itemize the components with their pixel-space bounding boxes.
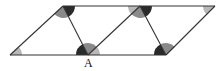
diagonal-2 [88, 6, 140, 55]
diagonal-1 [10, 6, 63, 55]
parallelogram-diagram [0, 0, 222, 71]
cross-edge-1 [63, 6, 88, 55]
diagram-lines [10, 6, 215, 55]
cross-edge-2 [140, 6, 166, 55]
angle-sectors [10, 6, 215, 55]
diagonal-3 [166, 6, 215, 55]
point-label-a: A [84, 56, 93, 71]
